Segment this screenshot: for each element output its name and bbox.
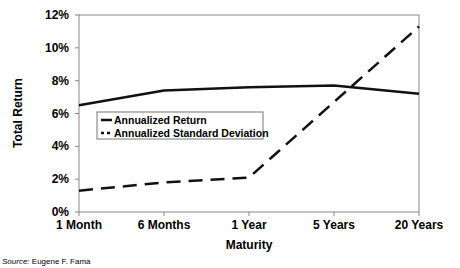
y-axis-title: Total Return [11, 78, 25, 148]
x-tick-label: 1 Year [231, 218, 266, 232]
y-tick-label: 6% [52, 107, 70, 121]
y-tick-label: 10% [45, 41, 69, 55]
y-tick-label: 8% [52, 74, 70, 88]
x-tick-label: 1 Month [56, 218, 102, 232]
y-tick-label: 0% [52, 205, 70, 219]
x-tick-label: 20 Years [395, 218, 444, 232]
y-axis: 0%2%4%6%8%10%12% [45, 8, 79, 219]
legend-item-return: Annualized Return [114, 114, 207, 126]
legend-item-stddev: Annualized Standard Deviation [114, 127, 269, 139]
x-axis: 1 Month6 Months1 Year5 Years20 Years [56, 212, 444, 232]
x-tick-label: 6 Months [138, 218, 191, 232]
x-axis-title: Maturity [226, 238, 273, 252]
y-tick-label: 12% [45, 8, 69, 22]
line-chart: 0%2%4%6%8%10%12% 1 Month6 Months1 Year5 … [0, 0, 460, 268]
y-tick-label: 4% [52, 139, 70, 153]
legend: Annualized Return Annualized Standard De… [97, 112, 269, 139]
x-tick-label: 5 Years [313, 218, 355, 232]
y-tick-label: 2% [52, 172, 70, 186]
source-note: Source: Eugene F. Fama [2, 257, 91, 266]
